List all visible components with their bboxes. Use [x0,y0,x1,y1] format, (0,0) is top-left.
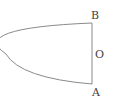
label-o: O [95,48,104,61]
geometry-diagram: B O A [0,0,113,102]
parabolic-arc [0,23,92,84]
label-b: B [91,9,99,22]
label-a: A [91,86,101,99]
